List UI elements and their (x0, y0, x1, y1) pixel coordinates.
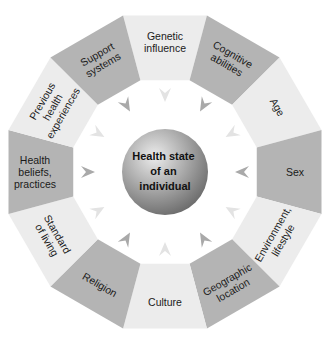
arrow-icon (159, 242, 171, 256)
arrow-icon (159, 88, 171, 102)
segment-label-line: Sex (286, 166, 305, 178)
segment-label-line: beliefs, (18, 166, 51, 178)
arrow-icon (81, 166, 95, 178)
center-label-line-2: of an (150, 165, 177, 177)
arrow-icon (118, 230, 135, 248)
segment-label: Healthbeliefs,practices (14, 154, 56, 190)
segment-label-line: practices (14, 178, 56, 190)
arrow-icon (89, 202, 107, 219)
center-label-line-1: Health state (132, 150, 194, 162)
arrow-icon (195, 230, 212, 248)
segment-label-line: Genetic (147, 30, 183, 42)
segment-label-line: Health (20, 154, 51, 166)
segment-label-line: influence (144, 42, 186, 54)
arrow-icon (223, 125, 241, 142)
arrow-icon (235, 166, 249, 178)
segment-label: Geneticinfluence (144, 30, 186, 54)
segment-label: Sex (286, 166, 305, 178)
center-label-line-3: individual (139, 180, 190, 192)
arrow-icon (89, 125, 107, 142)
segment-label: Culture (148, 296, 182, 308)
segment-label-line: Culture (148, 296, 182, 308)
arrow-icon (223, 202, 241, 219)
health-factors-diagram: GeneticinfluenceCognitiveabilitiesAgeSex… (0, 0, 331, 337)
arrow-icon (118, 96, 135, 114)
arrow-icon (195, 96, 212, 114)
center-node: Health state of an individual (122, 129, 208, 215)
